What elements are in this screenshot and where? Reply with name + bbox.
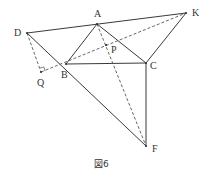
segment-AB	[66, 24, 97, 64]
label-q: Q	[37, 77, 45, 88]
point-q	[40, 71, 42, 73]
right-angle-marker	[40, 67, 45, 71]
label-p: P	[111, 44, 117, 55]
figure-caption: 図6	[94, 159, 109, 169]
point-k	[185, 12, 187, 14]
point-p	[105, 44, 107, 46]
point-f	[145, 145, 147, 147]
point-a	[96, 23, 98, 25]
segment-AF	[97, 24, 146, 146]
point-labels: ABCDKPQF	[14, 7, 200, 154]
solid-lines	[27, 13, 186, 146]
label-a: A	[94, 8, 102, 19]
segment-CK	[146, 13, 186, 63]
segment-BC	[66, 63, 146, 64]
geometry-figure: ABCDKPQF 図6	[0, 0, 210, 179]
dashed-lines	[27, 13, 186, 146]
label-c: C	[150, 60, 157, 71]
point-b	[65, 63, 67, 65]
right-angle-icon	[40, 67, 45, 71]
label-k: K	[192, 7, 200, 18]
segment-DQ	[27, 33, 41, 72]
label-b: B	[61, 69, 68, 80]
point-d	[26, 32, 28, 34]
point-c	[145, 62, 147, 64]
label-f: F	[152, 143, 158, 154]
label-d: D	[14, 27, 21, 38]
segment-DF	[27, 33, 146, 146]
